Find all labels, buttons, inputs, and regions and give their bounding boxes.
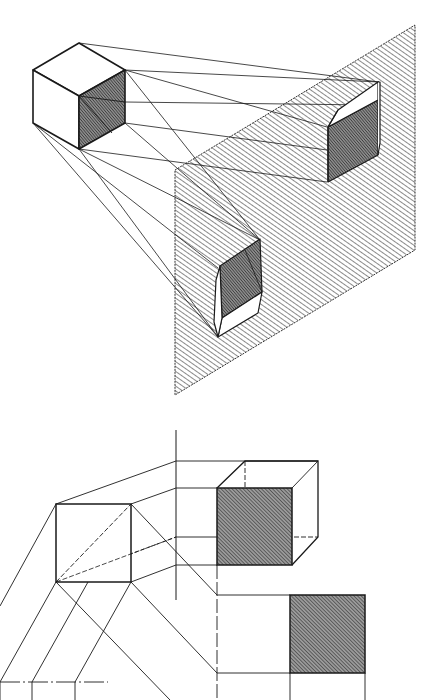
- drawing-svg: [0, 0, 432, 700]
- bottom-drawing: [0, 430, 365, 700]
- inclined-plane: [175, 25, 415, 395]
- hatched-square-view: [290, 595, 365, 673]
- cube-hatched-front-face: [217, 488, 292, 565]
- technical-drawing: [0, 0, 432, 700]
- top-drawing: [33, 25, 415, 395]
- source-cube: [33, 43, 125, 149]
- oblique-cube: [217, 461, 318, 565]
